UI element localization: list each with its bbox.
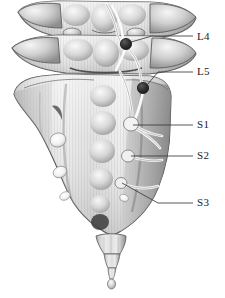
label-L5: L5	[197, 66, 210, 77]
crest-tubercle-4	[89, 168, 113, 190]
L5-spinous-process	[93, 39, 119, 67]
label-L4: L4	[197, 31, 210, 42]
S1-foramen-exit	[124, 117, 139, 131]
label-S2: S2	[197, 150, 209, 161]
crest-tubercle-1	[90, 85, 116, 107]
L5-left-lamina	[63, 39, 93, 61]
L4-left-lamina	[62, 4, 90, 26]
label-S1: S1	[197, 119, 209, 130]
label-S3: S3	[197, 197, 209, 208]
anatomical-figure: L4 L5 S1 S2 S3	[0, 0, 225, 298]
S3-foramen-exit	[115, 178, 127, 189]
L4-right-lamina	[118, 4, 146, 26]
crest-tubercle-2	[90, 111, 116, 135]
sacrum-illustration	[0, 0, 225, 298]
L5-dorsal-root-ganglion	[137, 82, 148, 93]
L4-dorsal-root-ganglion	[120, 38, 131, 49]
crest-tubercle-3	[89, 139, 115, 163]
coccyx-segment-4	[108, 279, 116, 289]
sacral-hiatus	[91, 214, 109, 230]
crest-tubercle-5	[90, 195, 110, 213]
